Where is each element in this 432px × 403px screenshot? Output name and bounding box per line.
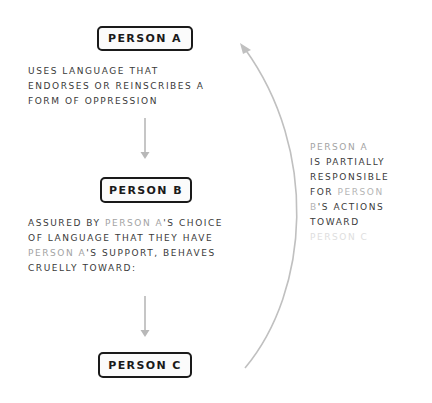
person-a-reference: PERSON A — [105, 218, 163, 228]
person-b-reference: PERSON — [338, 187, 384, 197]
node-person-a: PERSON A — [97, 26, 193, 51]
desc-b-line: PERSON A'S SUPPORT, BEHAVES — [28, 246, 223, 261]
arrowhead-c-to-a — [240, 43, 251, 54]
arrowhead-a-to-b — [141, 152, 150, 159]
desc-b-line: ASSURED BY PERSON A'S CHOICE — [28, 216, 223, 231]
desc-a-line: ENDORSES OR REINSCRIBES A — [28, 79, 204, 94]
note-text: 'S ACTIONS — [318, 202, 385, 212]
desc-a-line: FORM OF OPPRESSION — [28, 94, 204, 109]
node-person-b: PERSON B — [100, 177, 192, 203]
person-a-reference: PERSON A — [28, 248, 86, 258]
desc-a-line: USES LANGUAGE THAT — [28, 64, 204, 79]
desc-b-text: ASSURED BY — [28, 218, 105, 228]
desc-b-line: OF LANGUAGE THAT THEY HAVE — [28, 231, 223, 246]
desc-b-line: CRUELLY TOWARD: — [28, 261, 223, 276]
person-a-reference: PERSON A — [310, 140, 389, 155]
note-line: B'S ACTIONS — [310, 200, 389, 215]
node-person-c: PERSON C — [98, 352, 192, 378]
desc-b-text: 'S SUPPORT, BEHAVES — [86, 248, 215, 258]
person-c-reference: PERSON C — [310, 230, 389, 245]
note-line: RESPONSIBLE — [310, 170, 389, 185]
person-a-description: USES LANGUAGE THATENDORSES OR REINSCRIBE… — [28, 64, 204, 109]
note-line: TOWARD — [310, 215, 389, 230]
note-text: FOR — [310, 187, 338, 197]
node-person-b-label: PERSON B — [109, 184, 183, 197]
note-line: IS PARTIALLY — [310, 155, 389, 170]
person-b-description: ASSURED BY PERSON A'S CHOICEOF LANGUAGE … — [28, 216, 223, 276]
arrowhead-b-to-c — [141, 330, 150, 337]
node-person-a-label: PERSON A — [108, 32, 182, 45]
node-person-c-label: PERSON C — [108, 359, 182, 372]
note-line: FOR PERSON — [310, 185, 389, 200]
arrow-c-to-a-curve — [245, 49, 297, 368]
responsibility-note: PERSON AIS PARTIALLYRESPONSIBLEFOR PERSO… — [310, 140, 389, 245]
desc-b-text: 'S CHOICE — [163, 218, 223, 228]
person-b-reference: B — [310, 202, 318, 212]
